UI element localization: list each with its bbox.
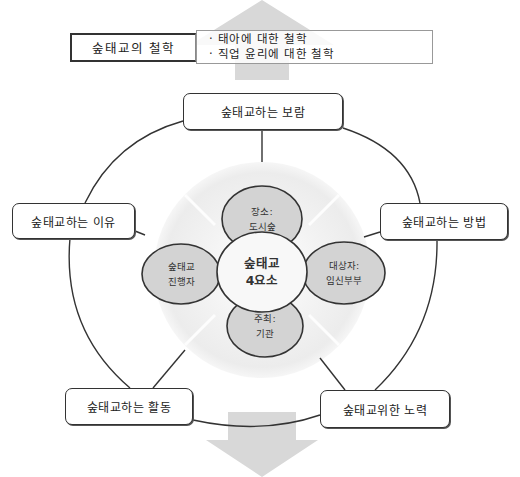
node-method: 숲태교하는 방법 [380,203,508,240]
philosophy-label: 숲태교의 철학 [70,33,196,62]
center-line2: 4요소 [246,272,279,289]
element-facilitator: 숲태교 진행자 [142,244,220,304]
philosophy-label-text: 숲태교의 철학 [92,38,175,57]
node-method-label: 숲태교하는 방법 [402,213,487,230]
node-effort-label: 숲태교위한 노력 [343,401,428,418]
element-target-line2: 임신부부 [326,273,362,288]
node-reason-label: 숲태교하는 이유 [31,213,116,230]
philosophy-item: 직업 윤리에 대한 철학 [209,47,432,62]
center-node: 숲태교 4요소 [217,232,307,312]
arc-top-left [85,121,183,203]
node-reason: 숲태교하는 이유 [12,203,135,239]
element-facilitator-line2: 진행자 [168,274,195,289]
element-host-line1: 주최: [254,311,275,326]
arc-top-right [343,128,420,203]
node-reward-label: 숲태교하는 보람 [221,103,306,120]
element-facilitator-line1: 숲태교 [168,259,195,274]
node-activity: 숲태교하는 활동 [65,388,193,425]
node-reward: 숲태교하는 보람 [183,93,343,130]
philosophy-list: 태아에 대한 철학 직업 윤리에 대한 철학 [196,30,433,64]
node-effort: 숲태교위한 노력 [320,390,450,428]
center-line1: 숲태교 [244,255,280,272]
philosophy-item: 태아에 대한 철학 [209,32,432,47]
element-host-line2: 기관 [256,326,274,341]
element-target-line1: 대상자: [329,258,359,273]
arc-left-bottom [69,238,130,388]
element-place-line1: 장소: [251,204,272,219]
element-target: 대상자: 임신부부 [303,242,385,304]
node-activity-label: 숲태교하는 활동 [87,398,172,415]
